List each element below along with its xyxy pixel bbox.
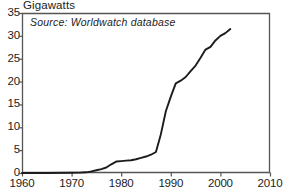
- plot-border: [23, 14, 270, 173]
- plot-area: [0, 0, 283, 195]
- plot-frame: [23, 14, 270, 173]
- wind-capacity-chart: Gigawatts Source: Worldwatch database 05…: [0, 0, 283, 195]
- data-line-series-0: [22, 29, 230, 173]
- axis-ticks: [19, 14, 271, 177]
